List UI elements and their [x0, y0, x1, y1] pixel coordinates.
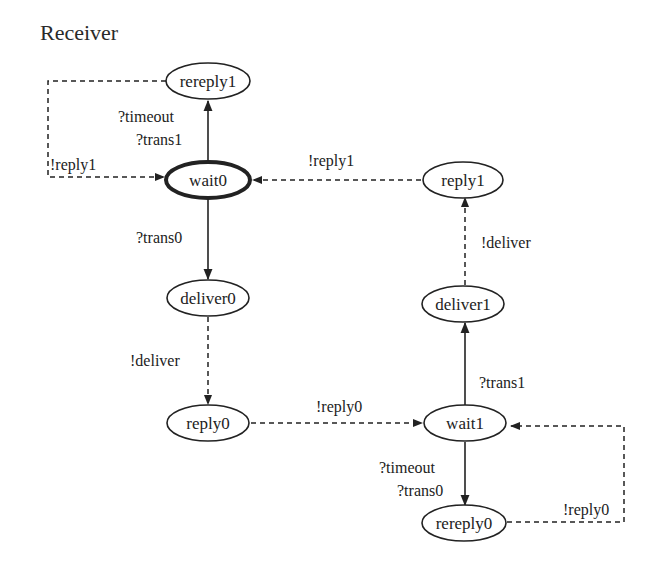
edge-label-trans0-bottom: ?trans0 [397, 482, 443, 499]
edge-label-timeout-bottom: ?timeout [379, 459, 436, 476]
edge-wait1-to-rereply0: ?timeout ?trans0 [379, 442, 465, 505]
edge-label-deliver-left: !deliver [130, 352, 180, 369]
state-reply1: reply1 [423, 162, 503, 198]
state-rereply0: rereply0 [422, 505, 506, 541]
edge-label-trans1: ?trans1 [136, 131, 182, 148]
state-label: rereply1 [180, 72, 237, 91]
edge-label-reply1-top: !reply1 [308, 152, 354, 170]
edge-reply0-to-wait1: !reply0 [251, 398, 422, 423]
edge-label-reply0-right: !reply0 [563, 501, 609, 519]
state-label: wait1 [446, 414, 484, 433]
state-rereply1: rereply1 [166, 63, 250, 99]
edge-label-trans1-right: ?trans1 [479, 374, 525, 391]
edge-label-trans0: ?trans0 [136, 229, 182, 246]
edge-wait0-to-rereply1: ?timeout ?trans1 [118, 101, 208, 162]
edge-rereply0-to-wait1: !reply0 [507, 426, 624, 522]
edge-wait0-to-deliver0: ?trans0 [136, 199, 208, 279]
edge-deliver1-to-reply1: !deliver [465, 198, 531, 285]
edge-rereply1-to-wait0: !reply1 [48, 81, 166, 177]
state-label: deliver0 [180, 289, 236, 308]
edge-deliver0-to-reply0: !deliver [130, 317, 208, 404]
state-wait1: wait1 [424, 405, 506, 441]
state-machine-diagram: ?timeout ?trans1 !reply1 !reply1 ?trans0… [0, 0, 663, 571]
edge-label-reply1-left: !reply1 [50, 156, 96, 174]
state-deliver1: deliver1 [422, 286, 504, 322]
state-label: rereply0 [436, 514, 493, 533]
state-label: reply1 [441, 171, 484, 190]
edge-label-deliver-right: !deliver [481, 234, 531, 251]
state-wait0-initial: wait0 [166, 162, 250, 198]
state-label: wait0 [189, 171, 227, 190]
edge-label-timeout: ?timeout [118, 108, 175, 125]
state-reply0: reply0 [167, 405, 249, 441]
edge-wait1-to-deliver1: ?trans1 [465, 323, 525, 405]
state-label: reply0 [186, 414, 229, 433]
edge-label-reply0-bottom: !reply0 [316, 398, 362, 416]
state-label: deliver1 [435, 295, 491, 314]
state-deliver0: deliver0 [167, 280, 249, 316]
edge-reply1-to-wait0: !reply1 [253, 152, 421, 180]
